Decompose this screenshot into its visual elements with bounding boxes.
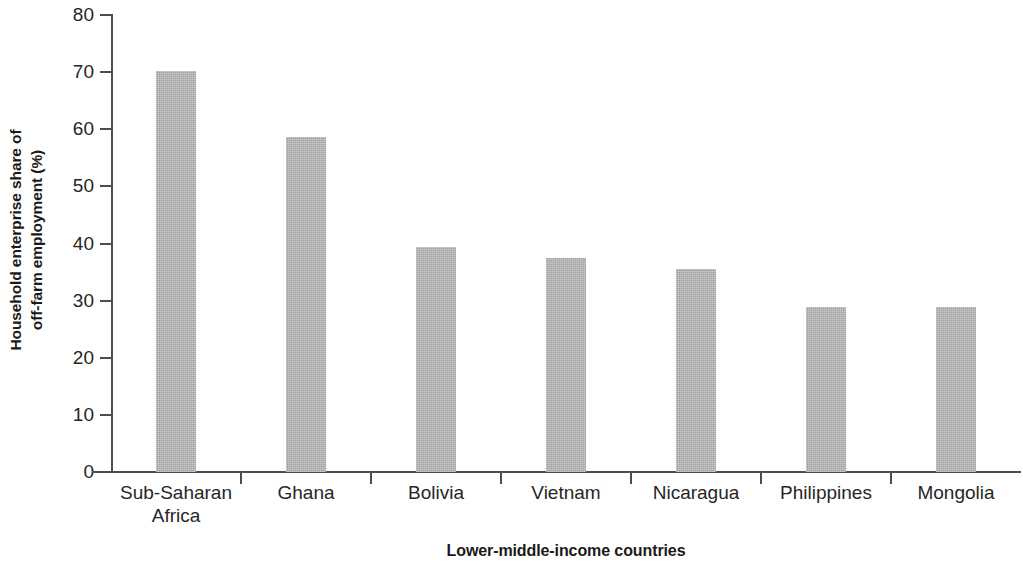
bar	[806, 307, 846, 472]
bar	[416, 247, 456, 472]
y-axis-tick	[100, 185, 111, 187]
y-axis-tick	[100, 128, 111, 130]
x-axis-tick-label: Mongolia	[891, 481, 1021, 504]
bar	[676, 269, 716, 472]
y-axis-tick-label: 70	[38, 62, 94, 81]
bar	[936, 307, 976, 472]
y-axis-tick-label: 50	[38, 176, 94, 195]
x-axis-tick-label: Nicaragua	[631, 481, 761, 504]
x-axis-tick-label-line: Mongolia	[891, 481, 1021, 504]
y-axis-tick	[100, 14, 111, 16]
y-axis-tick	[100, 300, 111, 302]
y-axis-tick-label: 10	[38, 405, 94, 424]
y-axis-tick	[100, 243, 111, 245]
x-axis-tick-label-line: Bolivia	[371, 481, 501, 504]
y-axis-tick-label: 30	[38, 291, 94, 310]
y-axis-tick-label: 60	[38, 119, 94, 138]
y-axis-title-line-1: Household enterprise share of	[5, 129, 26, 350]
bar	[156, 71, 196, 472]
y-axis-tick	[100, 357, 111, 359]
y-axis-tick-label: 20	[38, 348, 94, 367]
x-axis-tick-label: Sub-SaharanAfrica	[111, 481, 241, 527]
x-axis-tick-label: Ghana	[241, 481, 371, 504]
x-axis-tick-label: Philippines	[761, 481, 891, 504]
x-axis-tick-label-line: Sub-Saharan	[111, 481, 241, 504]
x-axis-tick-label: Bolivia	[371, 481, 501, 504]
x-axis-title: Lower-middle-income countries	[111, 542, 1021, 560]
y-axis-tick-label: 0	[38, 462, 94, 481]
x-axis-tick-label-line: Africa	[111, 504, 241, 527]
x-axis-tick-label-line: Vietnam	[501, 481, 631, 504]
bar-chart-figure: Household enterprise share of off-farm e…	[0, 0, 1023, 576]
y-axis-tick-labels: 01020304050607080	[28, 0, 94, 490]
x-axis-tick-label-line: Ghana	[241, 481, 371, 504]
bar	[286, 137, 326, 472]
y-axis-tick	[100, 71, 111, 73]
y-axis-tick-label: 80	[38, 5, 94, 24]
x-axis-tick-label: Vietnam	[501, 481, 631, 504]
plot-area	[111, 15, 1021, 472]
x-axis-tick-label-line: Philippines	[761, 481, 891, 504]
y-axis-tick	[100, 414, 111, 416]
x-axis-tick-label-line: Nicaragua	[631, 481, 761, 504]
y-axis-tick-label: 40	[38, 234, 94, 253]
bar	[546, 258, 586, 472]
